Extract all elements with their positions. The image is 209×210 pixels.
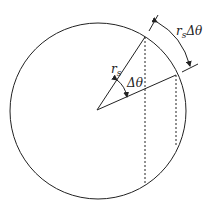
arc-length-dimension [157, 22, 190, 66]
angle-label: Δθ [126, 76, 144, 90]
radius-label: rs [111, 62, 122, 78]
extension-tick-upper [149, 15, 158, 31]
circle-arc-diagram: rs Δθ rsΔθ [0, 0, 209, 210]
circle [10, 23, 186, 199]
arc-length-label: rsΔθ [176, 24, 203, 40]
angle-arc [117, 80, 127, 97]
